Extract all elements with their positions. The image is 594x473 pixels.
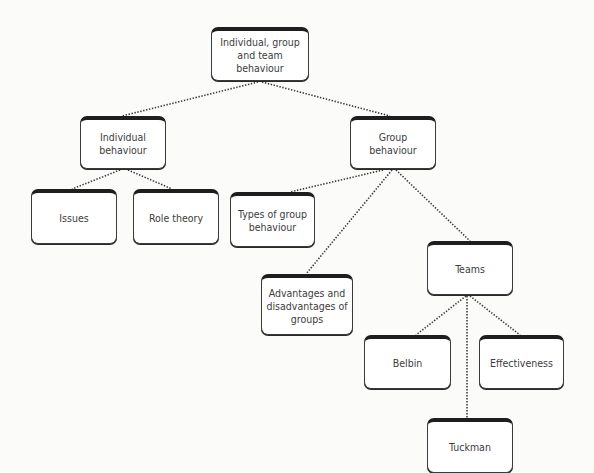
- node-label: Advantages and disadvantages of groups: [266, 287, 348, 326]
- node-group: Group behaviour: [350, 116, 436, 169]
- node-effectiveness: Effectiveness: [479, 335, 564, 389]
- connector-group-teams: [396, 170, 470, 241]
- node-individual: Individual behaviour: [80, 116, 166, 169]
- connector-group-types: [290, 170, 383, 192]
- node-label: Individual, group and team behaviour: [216, 36, 304, 75]
- node-belbin: Belbin: [364, 335, 451, 389]
- connector-teams-effectiveness: [470, 296, 520, 335]
- node-tuckman: Tuckman: [427, 418, 513, 473]
- node-label: Individual behaviour: [85, 131, 161, 157]
- node-label: Group behaviour: [355, 131, 431, 157]
- node-label: Belbin: [393, 357, 423, 370]
- node-label: Tuckman: [449, 441, 491, 454]
- node-role: Role theory: [133, 189, 219, 244]
- node-advantages: Advantages and disadvantages of groups: [261, 274, 353, 335]
- connector-individual-role: [128, 170, 172, 189]
- node-label: Types of group behaviour: [235, 208, 310, 234]
- node-label: Effectiveness: [490, 357, 553, 370]
- connector-group-advantages: [306, 170, 392, 274]
- node-label: Teams: [455, 263, 485, 276]
- node-issues: Issues: [31, 189, 117, 244]
- connector-individual-issues: [72, 170, 120, 189]
- node-label: Issues: [59, 212, 88, 225]
- node-label: Role theory: [149, 212, 203, 225]
- connector-root-group: [262, 82, 390, 116]
- connector-teams-belbin: [416, 296, 466, 335]
- connector-root-individual: [122, 82, 258, 116]
- node-types: Types of group behaviour: [230, 192, 315, 247]
- node-teams: Teams: [427, 241, 513, 295]
- node-root: Individual, group and team behaviour: [211, 27, 309, 81]
